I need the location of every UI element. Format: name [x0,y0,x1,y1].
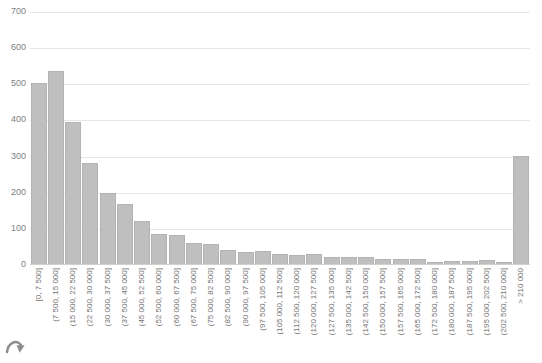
plot-area [30,12,530,265]
x-axis-tick: (45 000, 52 500] [138,268,146,326]
x-axis-line [30,264,530,265]
x-axis-tick: (157 500, 165 000] [397,268,405,335]
x-axis-tick: (135 000, 142 500] [345,268,353,335]
y-axis-tick: 200 [0,188,26,197]
x-axis-tick: (127 500, 135 000] [328,268,336,335]
y-axis-tick: 600 [0,43,26,52]
x-axis-tick: (150 000, 157 500] [379,268,387,335]
x-axis-tick: (15 000, 22 500] [69,268,77,326]
x-axis-tick: (7 500, 15 000] [52,268,60,322]
x-axis-tick: (90 000, 97 500] [242,268,250,326]
bar [48,71,64,265]
x-axis-tick: (172 500, 180 000] [431,268,439,335]
bar [31,83,47,265]
bar [220,250,236,265]
bar [117,204,133,265]
bar [238,252,254,265]
y-axis-tick-labels: 0100200300400500600700 [0,12,30,265]
x-axis-tick: (97 500, 105 000] [259,268,267,331]
bar [65,122,81,265]
x-axis-tick: (165 000, 172 500] [414,268,422,335]
histogram-chart: 0100200300400500600700 [0, 7 500](7 500,… [0,0,542,363]
x-axis-tick: (60 000, 67 500] [173,268,181,326]
bar-series [30,12,530,265]
x-axis-tick: (30 000, 37 500] [104,268,112,326]
bar [82,163,98,265]
y-axis-tick: 400 [0,115,26,124]
x-axis-tick: (112 500, 120 000] [293,268,301,335]
x-axis-tick: (202 500, 210 000] [500,268,508,335]
x-axis-tick: [0, 7 500] [35,268,43,301]
x-axis-tick: > 210 000 [517,268,525,304]
bar [134,221,150,265]
x-axis-tick: (187 500, 195 000] [466,268,474,335]
x-axis-tick: (52 500, 60 000] [155,268,163,326]
x-axis-tick: (180 000, 187 500] [448,268,456,335]
bar [169,235,185,265]
x-axis-tick: (82 500, 90 000] [224,268,232,326]
x-axis-tick: (75 000, 82 500] [207,268,215,326]
y-axis-tick: 700 [0,7,26,16]
x-axis-tick-labels: [0, 7 500](7 500, 15 000](15 000, 22 500… [30,268,530,358]
x-axis-tick: (67 500, 75 000] [190,268,198,326]
x-axis-tick: (120 000, 127 500] [310,268,318,335]
bar [151,234,167,265]
y-axis-tick: 500 [0,79,26,88]
bar [100,193,116,265]
bar [255,251,271,265]
y-axis-tick: 100 [0,224,26,233]
bar [186,243,202,265]
bar [203,244,219,265]
x-axis-tick: (37 500, 45 000] [121,268,129,326]
x-axis-tick: (105 000, 112 500] [276,268,284,335]
y-axis-tick: 0 [0,260,26,269]
y-axis-tick: 300 [0,152,26,161]
x-axis-tick: (195 000, 202 500] [483,268,491,335]
x-axis-tick: (22 500, 30 000] [86,268,94,326]
bar [513,156,529,266]
x-axis-tick: (142 500, 150 000] [362,268,370,335]
curved-arrow-icon [4,336,30,360]
